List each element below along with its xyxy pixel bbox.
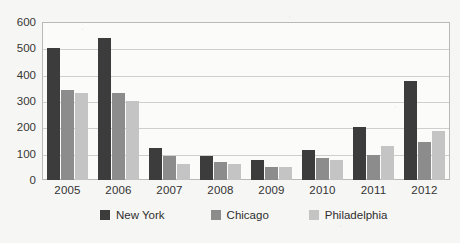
legend-label: New York [116, 209, 165, 221]
y-axis-tick-label: 200 [2, 121, 36, 133]
bar [316, 158, 329, 180]
bar-group [348, 22, 399, 180]
bar [353, 127, 366, 180]
legend-color-swatch [211, 210, 221, 220]
legend-color-swatch [309, 210, 319, 220]
bar [418, 142, 431, 180]
bar [214, 162, 227, 180]
bar [265, 167, 278, 180]
bar [302, 150, 315, 180]
chart-legend: New YorkChicagoPhiladelphia [100, 209, 387, 221]
bar [251, 160, 264, 180]
bar-group [144, 22, 195, 180]
x-axis-tick-label: 2012 [395, 184, 455, 196]
bar [367, 155, 380, 180]
legend-label: Philadelphia [325, 209, 388, 221]
legend-label: Chicago [227, 209, 269, 221]
bar-chart: 0100200300400500600 20052006200720082009… [0, 0, 460, 243]
bar-group [93, 22, 144, 180]
bar-group [195, 22, 246, 180]
bar [61, 90, 74, 180]
y-axis-tick-label: 600 [2, 16, 36, 28]
legend-item: Chicago [211, 209, 269, 221]
bar [112, 93, 125, 180]
bar [404, 81, 417, 180]
legend-item: New York [100, 209, 165, 221]
y-axis-tick-label: 0 [2, 174, 36, 186]
y-axis-tick-label: 500 [2, 42, 36, 54]
bar [279, 167, 292, 180]
bar-group [297, 22, 348, 180]
y-axis-tick-label: 300 [2, 95, 36, 107]
y-axis-tick-label: 400 [2, 69, 36, 81]
y-axis-tick-label: 100 [2, 148, 36, 160]
bar [330, 160, 343, 180]
legend-color-swatch [100, 210, 110, 220]
bar [432, 131, 445, 180]
bar [149, 148, 162, 180]
legend-item: Philadelphia [309, 209, 388, 221]
bar-group [42, 22, 93, 180]
bars-layer [42, 22, 450, 180]
bar [126, 101, 139, 180]
bar-group [246, 22, 297, 180]
bar [381, 146, 394, 180]
bar [163, 156, 176, 180]
bar [75, 93, 88, 180]
bar-group [399, 22, 450, 180]
bar [47, 48, 60, 180]
bar [98, 38, 111, 180]
bar [177, 164, 190, 180]
bar [228, 164, 241, 180]
bar [200, 156, 213, 180]
